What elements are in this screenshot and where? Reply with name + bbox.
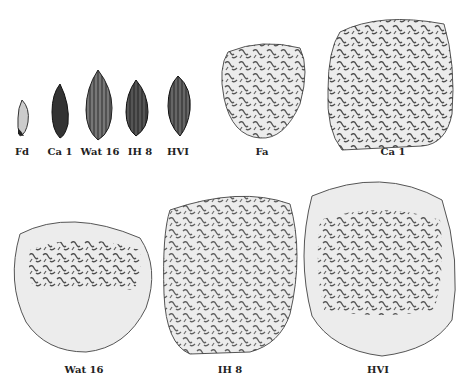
seed-label-ih8: IH 8 bbox=[128, 146, 153, 157]
seed-wat16 bbox=[86, 70, 112, 140]
cell-wat16 bbox=[14, 222, 152, 352]
seed-label-fd: Fd bbox=[15, 146, 29, 157]
cell-label-hvi: HVI bbox=[367, 364, 389, 375]
cell-fa bbox=[222, 44, 305, 138]
cell-label-ca1: Ca 1 bbox=[381, 146, 406, 157]
cell-hvi bbox=[304, 182, 455, 356]
cell-label-wat16: Wat 16 bbox=[65, 364, 104, 375]
cell-label-fa: Fa bbox=[255, 146, 268, 157]
seed-label-ca1: Ca 1 bbox=[48, 146, 73, 157]
seed-label-hvi: HVI bbox=[167, 146, 189, 157]
seed-ih8 bbox=[126, 80, 148, 136]
seed-hvi bbox=[168, 76, 190, 136]
cell-ca1-top bbox=[328, 20, 453, 151]
seed-ca1 bbox=[52, 84, 68, 138]
illustration-plate bbox=[0, 0, 463, 384]
cell-label-ih8: IH 8 bbox=[218, 364, 243, 375]
seed-fd bbox=[18, 100, 29, 136]
cell-ih8 bbox=[164, 196, 297, 354]
seed-label-wat16: Wat 16 bbox=[81, 146, 120, 157]
